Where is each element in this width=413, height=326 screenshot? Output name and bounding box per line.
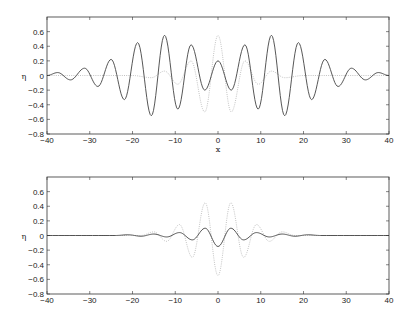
y-axis-label: η bbox=[22, 72, 27, 81]
series-group bbox=[47, 35, 389, 115]
y-tick-label: −0.8 bbox=[28, 130, 44, 139]
figure: −40−30−20−100102030400.60.40.20−0.2−0.4−… bbox=[0, 0, 413, 326]
x-tick-label: −30 bbox=[83, 296, 97, 305]
y-axis-label: η bbox=[22, 232, 27, 241]
series-group bbox=[47, 203, 389, 276]
x-tick-label: 0 bbox=[216, 136, 221, 145]
dotted-line bbox=[47, 203, 389, 276]
y-tick-label: −0.6 bbox=[28, 115, 44, 124]
y-tick-label: −0.6 bbox=[28, 275, 44, 284]
x-tick-label: −10 bbox=[168, 296, 182, 305]
y-tick-label: 0.6 bbox=[33, 28, 45, 37]
x-tick-label: −20 bbox=[126, 296, 140, 305]
bottom-plot: −40−30−20−100102030400.60.40.20−0.2−0.4−… bbox=[22, 177, 394, 305]
y-tick-label: 0.2 bbox=[33, 217, 45, 226]
y-tick-label: −0.4 bbox=[28, 101, 44, 110]
dotted-line bbox=[47, 35, 389, 112]
y-tick-label: −0.2 bbox=[28, 246, 44, 255]
y-tick-label: −0.4 bbox=[28, 261, 44, 270]
x-tick-label: 0 bbox=[216, 296, 221, 305]
y-tick-label: 0 bbox=[40, 72, 45, 81]
x-tick-label: 30 bbox=[342, 296, 351, 305]
y-tick-label: −0.8 bbox=[28, 290, 44, 299]
solid-line bbox=[47, 228, 389, 246]
x-axis-label: x bbox=[216, 145, 221, 154]
y-tick-label: 0.6 bbox=[33, 188, 45, 197]
x-tick-label: −10 bbox=[168, 136, 182, 145]
x-tick-label: 40 bbox=[385, 296, 394, 305]
x-tick-label: 20 bbox=[299, 136, 308, 145]
y-tick-label: 0.4 bbox=[33, 42, 45, 51]
y-tick-label: 0.4 bbox=[33, 202, 45, 211]
x-tick-label: 40 bbox=[385, 136, 394, 145]
top-plot: −40−30−20−100102030400.60.40.20−0.2−0.4−… bbox=[22, 17, 394, 154]
x-tick-label: 20 bbox=[299, 296, 308, 305]
x-tick-label: 10 bbox=[256, 136, 265, 145]
x-tick-label: 10 bbox=[256, 296, 265, 305]
y-tick-label: 0 bbox=[40, 232, 45, 241]
x-tick-label: −30 bbox=[83, 136, 97, 145]
y-tick-label: −0.2 bbox=[28, 86, 44, 95]
x-tick-label: 30 bbox=[342, 136, 351, 145]
y-tick-label: 0.2 bbox=[33, 57, 45, 66]
x-tick-label: −20 bbox=[126, 136, 140, 145]
